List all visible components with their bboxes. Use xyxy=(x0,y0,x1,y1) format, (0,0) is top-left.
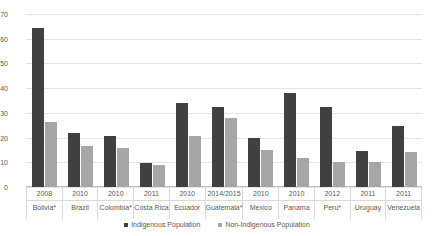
bar-indigenous xyxy=(176,103,188,187)
legend-swatch-icon xyxy=(218,223,222,227)
category-cell: 2010Mexico xyxy=(243,187,279,219)
category-cell: 2010Ecuador xyxy=(170,187,206,219)
category-cell: 2010Colombia* xyxy=(98,187,134,219)
bar-group xyxy=(278,14,314,187)
category-cell: 2011Venezuela xyxy=(386,187,422,219)
category-name-label: Ecuador xyxy=(174,204,200,211)
category-separator xyxy=(63,200,98,201)
category-cell: 2011Costa Rica xyxy=(134,187,170,219)
category-cell: 2014/2015Guatemala* xyxy=(206,187,244,219)
category-name-label: Bolivia* xyxy=(33,204,56,211)
bar-indigenous xyxy=(320,107,332,187)
legend-label: Non-Indigenous Population xyxy=(225,221,309,228)
bar-group xyxy=(170,14,206,187)
bar-group xyxy=(206,14,242,187)
bar-group xyxy=(26,14,62,187)
category-name-label: Panama xyxy=(284,204,310,211)
category-axis: 2008Bolivia*2010Brazil2010Colombia*2011C… xyxy=(26,187,422,219)
bar-indigenous xyxy=(140,163,152,187)
category-cell: 2010Brazil xyxy=(63,187,99,219)
y-axis-tick-label: 20 xyxy=(0,134,8,141)
category-year-label: 2011 xyxy=(144,190,159,197)
bar-indigenous xyxy=(32,28,44,187)
bar-group xyxy=(242,14,278,187)
category-year-label: 2010 xyxy=(179,190,195,197)
category-name-label: Mexico xyxy=(250,204,272,211)
bar-non-indigenous xyxy=(297,158,309,187)
category-separator xyxy=(386,200,421,201)
category-year-label: 2010 xyxy=(289,190,305,197)
category-separator xyxy=(206,200,243,201)
legend-item[interactable]: Non-Indigenous Population xyxy=(218,221,309,228)
category-separator xyxy=(27,200,62,201)
legend-item[interactable]: Indigenous Population xyxy=(124,221,200,228)
bar-indigenous xyxy=(284,93,296,187)
bar-group xyxy=(350,14,386,187)
bar-indigenous xyxy=(356,151,368,187)
bar-non-indigenous xyxy=(369,162,381,187)
y-axis-tick-label: 40 xyxy=(0,85,8,92)
category-separator xyxy=(351,200,386,201)
legend-swatch-icon xyxy=(124,223,128,227)
bar-non-indigenous xyxy=(45,122,57,187)
category-separator xyxy=(279,200,314,201)
bar-group xyxy=(386,14,422,187)
bar-non-indigenous xyxy=(261,150,273,187)
y-axis-tick-label: 10 xyxy=(0,159,8,166)
category-year-label: 2010 xyxy=(108,190,124,197)
bar-non-indigenous xyxy=(225,118,237,187)
category-cell: 2011Uruguay xyxy=(351,187,387,219)
category-name-label: Guatemala* xyxy=(206,204,243,211)
category-year-label: 2010 xyxy=(253,190,269,197)
bar-group xyxy=(314,14,350,187)
category-year-label: 2011 xyxy=(360,190,375,197)
category-separator xyxy=(170,200,205,201)
bar-indigenous xyxy=(248,138,260,187)
category-cell: 2008Bolivia* xyxy=(26,187,63,219)
category-year-label: 2012 xyxy=(324,190,340,197)
bar-group xyxy=(98,14,134,187)
bar-non-indigenous xyxy=(153,165,165,187)
bar-groups xyxy=(26,14,422,187)
category-year-label: 2011 xyxy=(396,190,411,197)
category-year-label: 2010 xyxy=(72,190,88,197)
bar-non-indigenous xyxy=(81,146,93,187)
category-year-label: 2014/2015 xyxy=(207,190,240,197)
category-name-label: Costa Rica xyxy=(134,204,168,211)
bar-non-indigenous xyxy=(189,136,201,187)
category-separator xyxy=(134,200,169,201)
category-name-label: Uruguay xyxy=(355,204,381,211)
y-axis-tick-label: 50 xyxy=(0,60,8,67)
bar-indigenous xyxy=(68,133,80,187)
bar-indigenous xyxy=(212,107,224,187)
category-name-label: Brazil xyxy=(71,204,89,211)
chart-legend: Indigenous PopulationNon-Indigenous Popu… xyxy=(0,221,434,228)
bar-indigenous xyxy=(392,126,404,187)
plot-area: 010203040506070 xyxy=(26,14,422,187)
category-separator xyxy=(98,200,133,201)
y-axis-tick-label: 0 xyxy=(0,184,8,191)
category-name-label: Venezuela xyxy=(387,204,420,211)
bar-non-indigenous xyxy=(405,152,417,187)
category-name-label: Colombia* xyxy=(100,204,132,211)
bar-non-indigenous xyxy=(117,148,129,187)
y-axis-tick-label: 70 xyxy=(0,11,8,18)
category-separator xyxy=(315,200,350,201)
category-cell: 2010Panama xyxy=(279,187,315,219)
category-year-label: 2008 xyxy=(37,190,53,197)
category-cell: 2012Peru* xyxy=(315,187,351,219)
bar-non-indigenous xyxy=(333,162,345,187)
y-axis-tick-label: 30 xyxy=(0,109,8,116)
bar-indigenous xyxy=(104,136,116,187)
y-axis-tick-label: 60 xyxy=(0,35,8,42)
bar-group xyxy=(134,14,170,187)
bar-chart: 010203040506070 2008Bolivia*2010Brazil20… xyxy=(0,0,434,236)
bar-group xyxy=(62,14,98,187)
category-separator xyxy=(243,200,278,201)
legend-label: Indigenous Population xyxy=(131,221,200,228)
category-name-label: Peru* xyxy=(323,204,341,211)
